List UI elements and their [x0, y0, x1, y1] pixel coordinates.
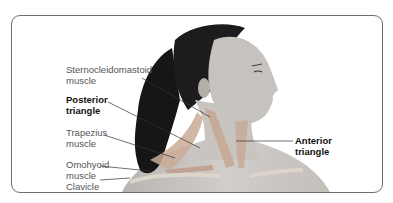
- label-trapezius-muscle: Trapezius muscle: [66, 127, 107, 149]
- label-posterior-triangle: Posterior triangle: [66, 94, 108, 116]
- label-omohyoid-muscle: Omohyoid muscle: [66, 159, 109, 181]
- ear: [198, 78, 210, 98]
- label-sternocleidomastoid: Sternocleidomastoid muscle: [66, 64, 152, 86]
- label-anterior-triangle: Anterior triangle: [295, 135, 332, 157]
- label-clavicle: Clavicle: [66, 181, 99, 192]
- neck-anatomy-illustration: [0, 0, 393, 203]
